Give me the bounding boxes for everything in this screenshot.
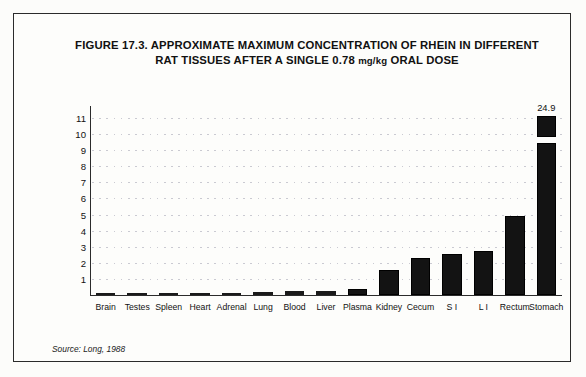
figure-title-line-2: RAT TISSUES AFTER A SINGLE 0.78 mg/kg OR… xyxy=(50,53,564,68)
x-axis-tick-label: Plasma xyxy=(343,302,372,312)
bar-segment-lower xyxy=(537,143,557,295)
bar xyxy=(96,293,116,295)
bar-rect xyxy=(190,293,210,295)
y-axis-tick-label: 9 xyxy=(60,145,86,156)
bar xyxy=(379,270,399,294)
y-axis-tick-label: 10 xyxy=(60,129,86,140)
bar xyxy=(316,291,336,294)
bar-series: 24.9 xyxy=(90,110,562,295)
x-axis-tick-label: S I xyxy=(447,302,458,312)
axis-break-gap xyxy=(537,137,557,143)
x-axis-tick-label: Testes xyxy=(125,302,150,312)
figure-container: FIGURE 17.3. APPROXIMATE MAXIMUM CONCENT… xyxy=(0,0,586,377)
x-axis-tick-label: Stomach xyxy=(529,302,563,312)
y-axis-tick-label: 4 xyxy=(60,225,86,236)
bar xyxy=(442,254,462,295)
bar-rect xyxy=(127,293,147,295)
x-axis-tick-label: Cecum xyxy=(407,302,435,312)
x-axis-line xyxy=(90,295,562,296)
bar-rect xyxy=(285,291,305,294)
bar xyxy=(190,293,210,295)
x-axis-tick-label: Adrenal xyxy=(217,302,247,312)
bar xyxy=(474,251,494,294)
bar-rect xyxy=(379,270,399,294)
bar xyxy=(159,293,179,295)
figure-title-line-2-post: ORAL DOSE xyxy=(387,54,459,66)
figure-title: FIGURE 17.3. APPROXIMATE MAXIMUM CONCENT… xyxy=(50,38,564,68)
bar xyxy=(505,216,525,295)
bar xyxy=(285,291,305,294)
bar-rect xyxy=(505,216,525,295)
y-axis-tick-label: 2 xyxy=(60,257,86,268)
x-axis-tick-label: Lung xyxy=(253,302,272,312)
x-axis-tick-label: Brain xyxy=(96,302,116,312)
figure-title-line-2-pre: RAT TISSUES AFTER A SINGLE 0.78 xyxy=(155,54,358,66)
x-axis-tick-label: Rectum xyxy=(500,302,530,312)
y-axis-tick-label: 11 xyxy=(60,113,86,124)
bar-rect xyxy=(222,293,242,295)
bar-rect xyxy=(159,293,179,295)
bar: 24.9 xyxy=(537,116,557,295)
bar xyxy=(222,293,242,295)
bar-rect xyxy=(253,292,273,294)
bar-rect xyxy=(348,289,368,295)
bar xyxy=(411,258,431,295)
source-note: Source: Long, 1988 xyxy=(52,344,125,354)
x-axis-tick-label: Kidney xyxy=(376,302,403,312)
bar-rect xyxy=(96,293,116,295)
y-axis-tick-label: 7 xyxy=(60,177,86,188)
bar-rect xyxy=(411,258,431,295)
figure-title-line-1: FIGURE 17.3. APPROXIMATE MAXIMUM CONCENT… xyxy=(75,39,539,51)
x-axis-tick-label: Blood xyxy=(283,302,305,312)
bar-rect xyxy=(474,251,494,294)
bar-value-label: 24.9 xyxy=(516,102,576,113)
y-axis-tick-label: 8 xyxy=(60,161,86,172)
bar-rect xyxy=(442,254,462,295)
y-axis-ticks: 1234567891011 xyxy=(60,110,86,296)
bar xyxy=(348,289,368,295)
y-axis-tick-label: 1 xyxy=(60,273,86,284)
x-axis-tick-label: Heart xyxy=(190,302,211,312)
x-axis-labels: BrainTestesSpleenHeartAdrenalLungBloodLi… xyxy=(90,302,562,316)
x-axis-tick-label: Liver xyxy=(317,302,336,312)
y-axis-tick-label: 3 xyxy=(60,241,86,252)
bar xyxy=(253,292,273,294)
figure-title-dose-unit: mg/kg xyxy=(358,55,387,66)
y-axis-tick-label: 5 xyxy=(60,209,86,220)
figure-frame: FIGURE 17.3. APPROXIMATE MAXIMUM CONCENT… xyxy=(13,13,571,362)
x-axis-tick-label: Spleen xyxy=(155,302,182,312)
bar-rect xyxy=(316,291,336,294)
plot-area: 1234567891011 24.9 xyxy=(90,110,562,296)
bar xyxy=(127,293,147,295)
y-axis-tick-label: 6 xyxy=(60,193,86,204)
x-axis-tick-label: L I xyxy=(479,302,488,312)
bar-segment-upper xyxy=(537,116,557,137)
